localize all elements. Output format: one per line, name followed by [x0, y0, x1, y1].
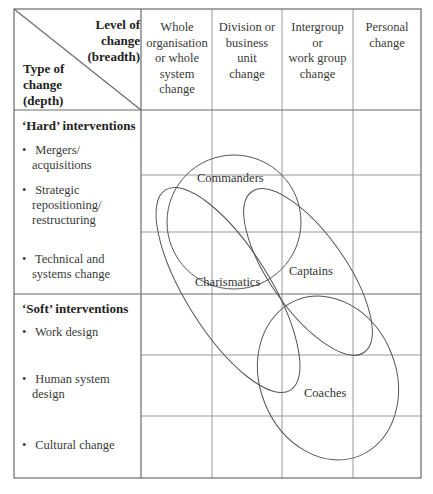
row-label-text: repositioning/: [32, 198, 101, 212]
row-label-work-design: Work design: [22, 325, 147, 340]
row-label-text: Mergers/: [35, 143, 80, 157]
column-header-line: organisation: [142, 36, 212, 52]
row-label-strategic: Strategic repositioning/ restructuring: [22, 183, 147, 228]
column-header-line: unit: [212, 51, 282, 67]
row-label-text: Technical and: [35, 252, 105, 266]
column-header-line: change: [212, 67, 282, 83]
captains-label: Captains: [289, 264, 333, 279]
depth-axis-label: Type of change (depth): [23, 61, 93, 109]
row-label-text: design: [32, 387, 65, 401]
column-header-line: business: [212, 36, 282, 52]
charismatics-label: Charismatics: [195, 275, 260, 290]
column-header-personal: Personal change: [353, 20, 421, 51]
row-label-text: Strategic: [35, 183, 79, 197]
row-label-mergers: Mergers/ acquisitions: [22, 143, 147, 173]
column-header-whole-organisation: Whole organisation or whole system chang…: [142, 20, 212, 98]
row-label-cultural: Cultural change: [22, 438, 147, 453]
row-label-text: systems change: [32, 267, 110, 281]
depth-label-line: (depth): [23, 93, 93, 109]
column-header-line: change: [142, 82, 212, 98]
column-header-line: work group: [282, 51, 353, 67]
commanders-label: Commanders: [197, 171, 264, 186]
breadth-label-line: Level of: [70, 17, 140, 33]
row-label-text: Work design: [35, 325, 98, 339]
column-header-line: Personal: [353, 20, 421, 36]
row-label-technical: Technical and systems change: [22, 252, 147, 282]
column-header-line: system: [142, 67, 212, 83]
column-header-line: Intergroup: [282, 20, 353, 36]
column-header-line: or: [282, 36, 353, 52]
coaches-label: Coaches: [304, 386, 346, 401]
depth-label-line: Type of: [23, 61, 93, 77]
column-header-line: Whole: [142, 20, 212, 36]
row-label-text: Cultural change: [35, 438, 115, 452]
column-header-line: Division or: [212, 20, 282, 36]
row-label-text: acquisitions: [32, 158, 92, 172]
column-header-line: or whole: [142, 51, 212, 67]
column-header-intergroup: Intergroup or work group change: [282, 20, 353, 82]
row-label-text: restructuring: [32, 213, 96, 227]
leadership-change-matrix: Level of change (breadth) Type of change…: [0, 0, 433, 494]
hard-interventions-title: ‘Hard’ interventions: [22, 118, 136, 133]
row-label-text: Human system: [35, 372, 110, 386]
soft-interventions-title: ‘Soft’ interventions: [22, 301, 128, 316]
column-header-line: change: [353, 36, 421, 52]
coaches-ellipse: [233, 275, 422, 482]
breadth-axis-label: Level of change (breadth): [70, 17, 140, 65]
row-label-human-system: Human system design: [22, 372, 147, 402]
breadth-label-line: change: [70, 33, 140, 49]
column-header-division: Division or business unit change: [212, 20, 282, 82]
depth-label-line: change: [23, 77, 93, 93]
column-header-line: change: [282, 67, 353, 83]
